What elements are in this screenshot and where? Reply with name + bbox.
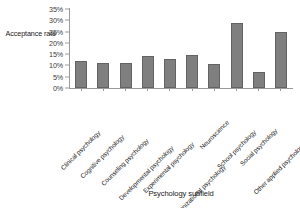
y-axis-tick-label: 0% xyxy=(53,84,63,93)
y-axis-tick-mark xyxy=(65,54,69,55)
y-axis-tick-mark xyxy=(65,76,69,77)
bar[interactable] xyxy=(208,64,220,88)
bar-slot xyxy=(181,9,203,88)
y-axis-tick-label: 30% xyxy=(49,16,63,25)
x-axis-tick-mark xyxy=(214,88,215,91)
y-axis-tick-mark xyxy=(65,9,69,10)
y-axis-tick-label: 15% xyxy=(49,50,63,59)
x-axis-tick-mark xyxy=(125,88,126,91)
y-axis-title: Acceptance rate xyxy=(2,30,56,38)
y-axis-tick-label: 20% xyxy=(49,38,63,47)
y-axis-tick-label: 10% xyxy=(49,61,63,70)
bar-slot xyxy=(137,9,159,88)
x-axis-category-label: Social psychology xyxy=(238,127,278,167)
x-axis-tick-mark xyxy=(103,88,104,91)
x-axis-category-labels: Clinical psychologyCognitive psychologyC… xyxy=(70,92,292,178)
bar[interactable] xyxy=(142,56,154,88)
bar[interactable] xyxy=(97,63,109,88)
bar-slot xyxy=(159,9,181,88)
bar[interactable] xyxy=(75,61,87,88)
y-axis-tick-label: 5% xyxy=(53,72,63,81)
x-axis-tick-mark xyxy=(236,88,237,91)
bar-slot xyxy=(92,9,114,88)
y-axis-tick-mark xyxy=(65,20,69,21)
plot-area xyxy=(70,9,292,88)
bar-slot xyxy=(248,9,270,88)
y-axis-tick-mark xyxy=(65,88,69,89)
x-axis-title: Psychology subfield xyxy=(70,189,292,198)
bar[interactable] xyxy=(164,59,176,88)
bar-chart: Acceptance rate 35%30%25%20%15%10%5%0% C… xyxy=(0,0,300,208)
bar[interactable] xyxy=(275,32,287,88)
bar[interactable] xyxy=(231,23,243,88)
y-axis-tick-label: 35% xyxy=(49,5,63,14)
y-axis-tick-mark xyxy=(65,42,69,43)
y-axis-tick-label: 25% xyxy=(49,27,63,36)
bar[interactable] xyxy=(253,72,265,88)
x-axis-tick-mark xyxy=(258,88,259,91)
y-axis-tick-mark xyxy=(65,65,69,66)
x-axis-tick-mark xyxy=(81,88,82,91)
y-axis-tick-mark xyxy=(65,31,69,32)
bar[interactable] xyxy=(186,55,198,88)
bar-slot xyxy=(203,9,225,88)
bar-slot xyxy=(225,9,247,88)
bar-slot xyxy=(70,9,92,88)
x-axis-tick-mark xyxy=(280,88,281,91)
x-axis-category-label: Neuroscience xyxy=(199,119,231,151)
bar-slot xyxy=(270,9,292,88)
x-axis-tick-mark xyxy=(169,88,170,91)
x-axis-tick-mark xyxy=(192,88,193,91)
x-axis-tick-mark xyxy=(147,88,148,91)
bar-slot xyxy=(114,9,136,88)
bar[interactable] xyxy=(120,63,132,88)
bar-series xyxy=(70,9,292,88)
